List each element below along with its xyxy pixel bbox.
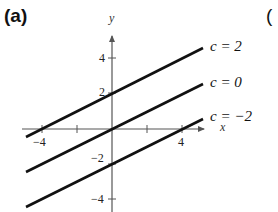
line-c-neg2 — [26, 119, 203, 207]
y-axis-label: y — [108, 11, 115, 25]
y-tick-label: −4 — [91, 192, 104, 206]
line-label-text: c = −2 — [210, 108, 252, 124]
y-tick-label: −2 — [91, 151, 104, 165]
line-label-text: c = 2 — [210, 38, 242, 54]
x-tick-label: −4 — [33, 135, 46, 149]
x-tick-label: 4 — [178, 135, 184, 149]
axes: −4 4 4 2 −2 −4 y x — [22, 11, 226, 212]
line-label-c-neg2: c = −2 — [210, 108, 252, 124]
lines — [26, 48, 203, 207]
line-c-0 — [26, 84, 203, 172]
line-label-c-2: c = 2 — [210, 38, 242, 54]
line-label-text: c = 0 — [210, 74, 242, 90]
line-c-2 — [26, 48, 203, 137]
panel-label: (a) — [4, 5, 27, 26]
next-panel-label-partial: ( — [266, 5, 273, 26]
y-tick-label: 4 — [99, 51, 105, 65]
figure-canvas: (a) ( −4 4 4 2 −2 −4 y x c = 2 c = 0 c =… — [0, 0, 278, 212]
line-label-c-0: c = 0 — [210, 74, 242, 90]
